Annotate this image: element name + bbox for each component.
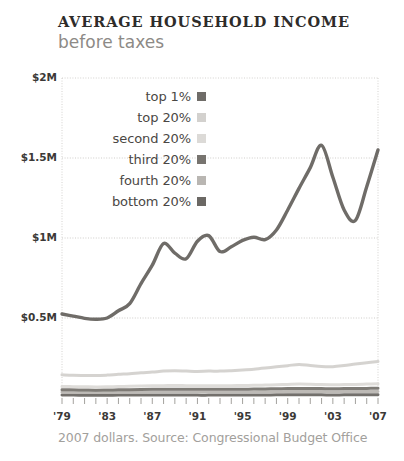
y-tick-label: $1M: [32, 231, 57, 243]
series-line: [62, 362, 378, 376]
x-tick-label: '91: [189, 410, 207, 422]
x-tick-label: '03: [324, 410, 342, 422]
source-note: 2007 dollars. Source: Congressional Budg…: [58, 430, 367, 445]
x-tick-label: '79: [53, 410, 71, 422]
legend-item-label: bottom 20%: [112, 194, 191, 209]
y-tick-label: $2M: [32, 71, 57, 83]
legend-item: fourth 20%: [74, 170, 206, 191]
x-tick-label: '95: [234, 410, 252, 422]
legend-item-label: top 20%: [137, 110, 191, 125]
series-line: [62, 384, 378, 387]
chart-canvas: [0, 0, 404, 461]
legend-color-swatch: [197, 134, 206, 143]
legend-color-swatch: [197, 92, 206, 101]
x-tickmarks: [62, 398, 378, 404]
legend-item: bottom 20%: [74, 191, 206, 212]
legend-color-swatch: [197, 176, 206, 185]
series-line: [62, 391, 378, 392]
legend-item-label: third 20%: [129, 152, 191, 167]
legend-item-label: second 20%: [113, 131, 191, 146]
legend-item: top 20%: [74, 107, 206, 128]
legend-color-swatch: [197, 113, 206, 122]
y-axis-labels: $2M$1.5M$1M$0.5M: [0, 0, 57, 400]
x-tick-label: '83: [98, 410, 116, 422]
x-tick-label: '07: [369, 410, 387, 422]
y-tick-label: $0.5M: [21, 311, 57, 323]
x-axis-labels: '79'83'87'91'95'99'03'07: [0, 410, 404, 426]
legend-item-label: top 1%: [146, 89, 191, 104]
legend-color-swatch: [197, 155, 206, 164]
x-tick-label: '99: [279, 410, 297, 422]
plot-area: [0, 0, 404, 461]
legend-color-swatch: [197, 197, 206, 206]
legend-item: top 1%: [74, 86, 206, 107]
chart-legend: top 1%top 20%second 20%third 20%fourth 2…: [74, 86, 206, 212]
legend-item: third 20%: [74, 149, 206, 170]
x-tick-label: '87: [143, 410, 161, 422]
legend-item-label: fourth 20%: [120, 173, 191, 188]
series-line: [62, 388, 378, 390]
legend-item: second 20%: [74, 128, 206, 149]
y-tick-label: $1.5M: [21, 151, 57, 163]
chart-figure: AVERAGE HOUSEHOLD INCOME before taxes $2…: [0, 0, 404, 461]
series-line: [62, 395, 378, 396]
